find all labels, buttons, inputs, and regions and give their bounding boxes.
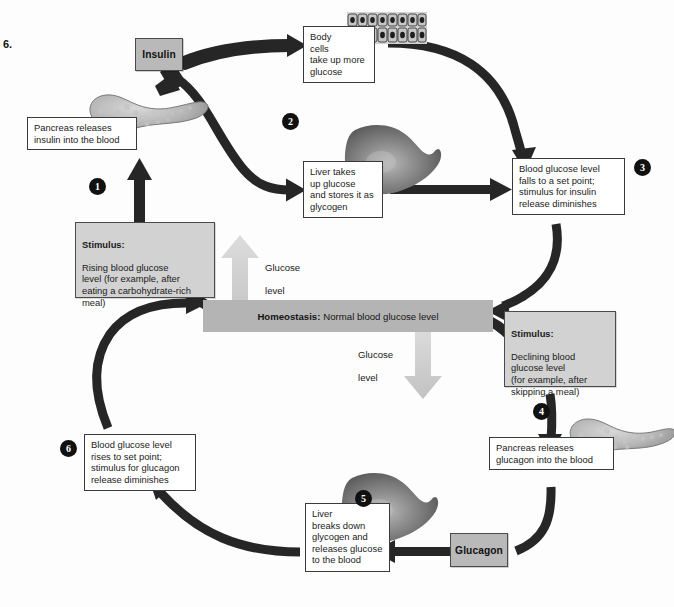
- step-number-2: 2: [282, 113, 299, 130]
- homeostasis-label: Homeostasis:: [257, 311, 320, 322]
- glucose-level-up-label: Glucose level: [265, 251, 300, 297]
- glucose-falls-box[interactable]: Blood glucose level falls to a set point…: [512, 158, 625, 215]
- step-number-3: 3: [634, 159, 651, 176]
- glucose-level-up-arrow: [221, 235, 259, 302]
- arrow-stimulus-to-pancreas: [127, 158, 152, 224]
- stimulus-rising-box[interactable]: Stimulus: Rising blood glucose level (fo…: [75, 222, 215, 298]
- arrow-insulin-to-liver: [176, 78, 306, 202]
- pancreas-insulin-box[interactable]: Pancreas releases insulin into the blood: [27, 117, 137, 150]
- liver-breaks-box[interactable]: Liver breaks down glycogen and releases …: [305, 503, 390, 572]
- pancreas-glucagon-box[interactable]: Pancreas releases glucagon into the bloo…: [489, 437, 614, 470]
- stimulus-declining-heading: Stimulus:: [511, 328, 554, 339]
- stimulus-rising-heading: Stimulus:: [82, 239, 125, 250]
- insulin-label-box[interactable]: Insulin: [135, 38, 183, 71]
- body-cells-box[interactable]: Body cells take up more glucose: [303, 26, 375, 83]
- step-number-6: 6: [60, 440, 77, 457]
- step-number-4: 4: [533, 403, 550, 420]
- glucagon-label-box[interactable]: Glucagon: [450, 533, 508, 567]
- arrow-glucoserises-to-homeostasis: [97, 291, 208, 428]
- arrow-glucosefalls-to-homeostasis: [487, 224, 557, 322]
- diagram-canvas: 6. Insulin Glucagon Pancreas releases in…: [0, 0, 674, 607]
- glucose-level-down-arrow: [404, 332, 442, 399]
- stimulus-declining-body: Declining blood glucose level (for examp…: [511, 351, 587, 397]
- liver-stores-box[interactable]: Liver takes up glucose and stores it as …: [303, 161, 383, 218]
- homeostasis-text: Normal blood glucose level: [323, 311, 438, 322]
- stimulus-declining-box[interactable]: Stimulus: Declining blood glucose level …: [504, 311, 616, 387]
- step-number-5: 5: [355, 490, 372, 507]
- glucose-up-line1: Glucose: [265, 262, 300, 273]
- homeostasis-bar: Homeostasis: Normal blood glucose level: [203, 300, 493, 332]
- arrow-pancreasglucagon-to-glucagon: [516, 487, 551, 551]
- arrow-insulin-to-bodycells: [181, 34, 307, 67]
- step-number-1: 1: [89, 178, 106, 195]
- glucose-up-line2: level: [265, 285, 285, 296]
- glucose-down-line1: Glucose: [358, 349, 393, 360]
- glucose-rises-box[interactable]: Blood glucose level rises to set point; …: [84, 434, 196, 491]
- glucose-level-down-label: Glucose level: [358, 338, 393, 384]
- glucose-down-line2: level: [358, 372, 378, 383]
- figure-number: 6.: [3, 38, 12, 50]
